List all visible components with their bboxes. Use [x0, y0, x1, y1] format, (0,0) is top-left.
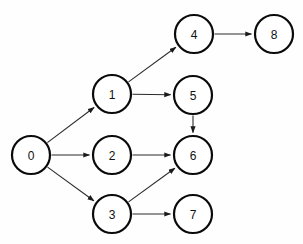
node-circle-3[interactable] [93, 195, 131, 233]
edge-1-to-4 [129, 47, 176, 82]
graph-node-7[interactable]: 7 [174, 195, 212, 233]
node-circle-1[interactable] [93, 75, 131, 113]
node-circle-0[interactable] [12, 136, 50, 174]
nodes-layer: 012345678 [12, 15, 293, 233]
graph-node-8[interactable]: 8 [255, 15, 293, 53]
edges-layer [47, 34, 251, 214]
graph-node-6[interactable]: 6 [174, 136, 212, 174]
node-circle-2[interactable] [93, 136, 131, 174]
node-circle-4[interactable] [175, 15, 213, 53]
graph-node-5[interactable]: 5 [174, 76, 212, 114]
graph-node-1[interactable]: 1 [93, 75, 131, 113]
edge-3-to-6 [129, 168, 175, 202]
graph-node-2[interactable]: 2 [93, 136, 131, 174]
graph-node-4[interactable]: 4 [175, 15, 213, 53]
graph-node-3[interactable]: 3 [93, 195, 131, 233]
edge-0-to-1 [47, 108, 94, 143]
node-circle-6[interactable] [174, 136, 212, 174]
edge-0-to-3 [48, 167, 94, 201]
node-circle-7[interactable] [174, 195, 212, 233]
node-circle-5[interactable] [174, 76, 212, 114]
node-circle-8[interactable] [255, 15, 293, 53]
graph-node-0[interactable]: 0 [12, 136, 50, 174]
directed-graph-canvas: 012345678 [0, 0, 303, 244]
